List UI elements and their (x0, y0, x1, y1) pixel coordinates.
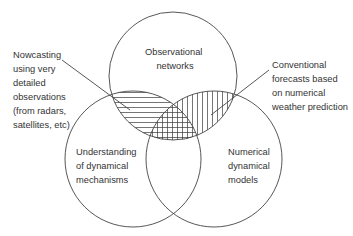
label-numerical-dynamical-models: Numerical dynamical models (228, 147, 272, 185)
callout-conventional-forecasts: Conventional forecasts based on numerica… (271, 60, 348, 112)
label-observational-networks: Observational networks (145, 47, 205, 71)
leader-line-nowcasting (62, 60, 130, 110)
venn-diagram: Observational networks Understanding of … (0, 0, 353, 236)
callout-nowcasting: Nowcasting using very detailed observati… (13, 50, 70, 130)
label-understanding-dynamical-mechanisms: Understanding of dynamical mechanisms (76, 147, 139, 185)
region-center-hatch (0, 0, 353, 236)
